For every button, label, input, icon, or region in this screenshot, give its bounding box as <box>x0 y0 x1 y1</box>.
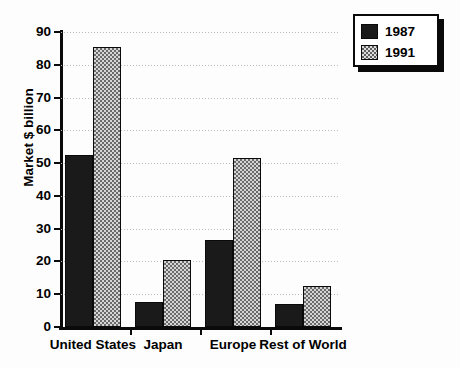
x-axis-category-label: United States <box>50 338 136 352</box>
x-axis-category-label: Europe <box>210 338 257 352</box>
legend-label: 1991 <box>385 46 415 60</box>
bar-chart: Market $ billion 0102030405060708090 Uni… <box>0 0 460 368</box>
y-axis-tick-label: 10 <box>36 287 51 301</box>
x-axis-category-label: Japan <box>143 338 182 352</box>
legend-label: 1987 <box>385 25 415 39</box>
legend-item: 1987 <box>361 21 437 42</box>
legend-item: 1991 <box>361 42 437 63</box>
legend-rows: 19871991 <box>361 21 437 63</box>
bar <box>233 158 261 327</box>
y-axis-tick-label: 0 <box>43 320 51 334</box>
y-axis-title: Market $ billion <box>21 58 36 218</box>
y-axis-tick-mark <box>54 195 61 197</box>
y-axis-tick-label: 20 <box>36 255 51 269</box>
bar <box>135 302 163 327</box>
bar <box>303 286 331 327</box>
legend: 19871991 <box>353 14 439 67</box>
x-axis-tick-mark <box>270 328 272 335</box>
y-axis-tick-label: 70 <box>36 91 51 105</box>
x-axis-tick-mark <box>200 328 202 335</box>
y-axis-tick-mark <box>54 31 61 33</box>
y-axis-tick-mark <box>54 260 61 262</box>
y-axis-tick-label: 80 <box>36 58 51 72</box>
y-axis-tick-mark <box>54 129 61 131</box>
y-axis-tick-label: 40 <box>36 189 51 203</box>
plot-area: 0102030405060708090 United StatesJapanEu… <box>60 32 340 327</box>
bar <box>205 240 233 327</box>
y-axis-tick-mark <box>54 64 61 66</box>
bar <box>93 47 121 327</box>
y-axis-line <box>60 30 63 329</box>
y-axis-tick-mark <box>54 162 61 164</box>
y-axis-tick-mark <box>54 293 61 295</box>
y-axis-tick-label: 30 <box>36 222 51 236</box>
y-axis-tick-label: 50 <box>36 156 51 170</box>
y-axis-tick-label: 90 <box>36 25 51 39</box>
legend-swatch <box>361 24 378 39</box>
y-axis-tick-mark <box>54 326 61 328</box>
bar <box>163 260 191 327</box>
gridline <box>61 32 340 33</box>
y-axis-tick-mark <box>54 97 61 99</box>
bar <box>275 304 303 327</box>
x-axis-category-label: Rest of World <box>259 338 347 352</box>
x-axis-tick-mark <box>130 328 132 335</box>
y-axis-tick-label: 60 <box>36 124 51 138</box>
y-axis-tick-mark <box>54 228 61 230</box>
legend-swatch <box>361 45 378 60</box>
bar <box>65 155 93 327</box>
